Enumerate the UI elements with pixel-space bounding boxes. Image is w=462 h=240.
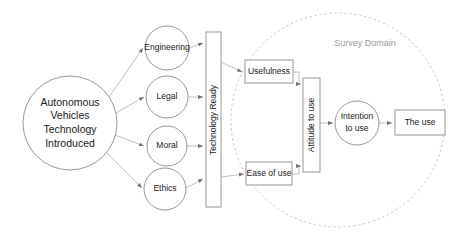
source-label-line-2: Vehicles [50,109,89,121]
node-ease-of-use[interactable]: Ease of use [246,162,292,185]
connector-ethics-to-technology-ready [186,179,203,188]
node-intention-to-use[interactable]: Intention to use [335,101,379,145]
node-technology-ready[interactable]: Technology Ready [206,32,221,207]
engineering-label: Engineering [144,42,190,52]
source-label-line-4: Introduced [45,137,95,149]
node-usefulness[interactable]: Usefulness [245,60,293,83]
moral-label: Moral [156,140,177,150]
connector-source-to-engineering [107,48,143,100]
the-use-label: The use [405,117,436,127]
attitude-to-use-label: Attitude to use [306,98,316,153]
intention-to-use-label-line-1: Intention [341,111,374,121]
node-attitude-to-use[interactable]: Attitude to use [303,78,320,172]
intention-to-use-label-line-2: to use [345,123,368,133]
connector-ease-of-use-to-attitude [292,166,301,174]
node-autonomous-vehicles-technology-introduced[interactable]: Autonomous Vehicles Technology Introduce… [23,76,117,170]
connector-source-to-legal [114,97,144,114]
ethics-label: Ethics [153,183,176,193]
node-the-use[interactable]: The use [395,110,445,135]
diagram-svg: Survey Domain Autonomous Vehicles Techno… [0,0,462,240]
legal-label: Legal [157,91,178,101]
source-label-line-1: Autonomous [41,96,100,108]
connector-source-to-ethics [106,152,142,188]
connector-technology-ready-to-ease-of-use [221,174,244,177]
node-moral[interactable]: Moral [147,126,187,166]
technology-ready-label: Technology Ready [208,84,218,155]
diagram-canvas: Survey Domain Autonomous Vehicles Techno… [0,0,462,240]
node-engineering[interactable]: Engineering [144,26,190,70]
node-ethics[interactable]: Ethics [144,168,186,210]
survey-domain-label: Survey Domain [334,38,396,48]
usefulness-label: Usefulness [248,66,290,76]
source-label-line-3: Technology [43,123,97,135]
connector-engineering-to-technology-ready [189,43,203,48]
node-legal[interactable]: Legal [146,76,188,118]
ease-of-use-label: Ease of use [247,168,292,178]
connector-source-to-moral [115,135,144,146]
connector-technology-ready-to-usefulness [221,62,242,72]
connector-usefulness-to-attitude [293,72,301,84]
